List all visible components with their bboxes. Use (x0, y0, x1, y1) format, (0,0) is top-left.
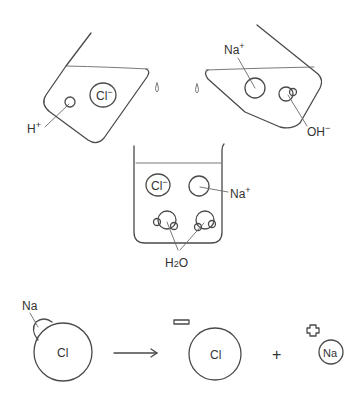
water-molecule-left (154, 211, 178, 230)
right-beaker-outline (206, 25, 322, 128)
plus-operator: + (272, 346, 281, 363)
right-oh-label: OH− (307, 123, 330, 139)
center-na-label: Na+ (230, 185, 251, 201)
na-atom-bump (33, 319, 52, 340)
water-label: H2O (165, 256, 188, 270)
left-beaker: Cl− H+ (27, 33, 159, 143)
center-na-ion (189, 176, 209, 196)
left-cl-label: Cl− (96, 87, 113, 103)
center-na-pointer (200, 187, 228, 192)
water-pointer-left (167, 222, 178, 250)
right-oh-pointer (288, 95, 307, 126)
right-na-label: Na+ (224, 41, 245, 57)
na-product-label: Na (323, 347, 338, 359)
water-molecule-right (195, 211, 216, 231)
reaction-equation: Na Cl Cl + Na (22, 299, 343, 381)
right-beaker-water-line (206, 67, 314, 70)
left-beaker-outline (44, 33, 149, 143)
na-reactant-label: Na (22, 299, 38, 313)
center-cl-label: Cl− (151, 177, 168, 193)
reaction-arrow (114, 349, 157, 357)
center-beaker: Cl− Na+ H2O (134, 144, 251, 270)
water-pointer-right (180, 223, 204, 250)
right-drop (196, 84, 199, 93)
cl-reactant-label: Cl (57, 346, 68, 360)
center-beaker-outline (134, 144, 224, 243)
left-beaker-water-line (66, 66, 148, 69)
left-h-ion (65, 97, 75, 107)
cl-product-label: Cl (210, 348, 221, 362)
right-beaker: Na+ OH− (196, 25, 331, 139)
plus-sign-icon (307, 325, 319, 336)
diagram-canvas: Cl− H+ Na+ OH− Cl− Na+ (0, 0, 363, 414)
left-drop (156, 83, 159, 92)
minus-sign-icon (174, 320, 189, 324)
left-h-label: H+ (27, 120, 41, 136)
